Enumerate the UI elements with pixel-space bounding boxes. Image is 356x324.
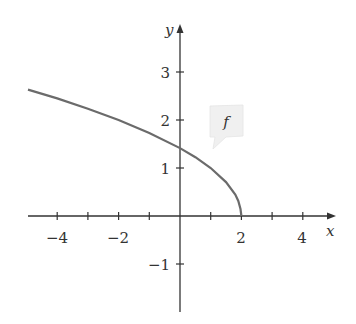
function-graph: −4 −2 2 4 3 2 1 −1 x y f — [0, 0, 356, 324]
curve-label-callout: f — [210, 105, 243, 149]
curve-f — [28, 90, 241, 216]
x-axis-arrow-icon — [327, 213, 336, 220]
x-tick-label: −2 — [107, 229, 129, 247]
x-tick-label: 4 — [297, 229, 307, 247]
x-axis-label: x — [326, 222, 335, 240]
x-tick-label: −4 — [46, 229, 68, 247]
y-tick-label: 3 — [160, 64, 170, 82]
x-tick-label: 2 — [236, 229, 246, 247]
y-tick-label: −1 — [148, 256, 170, 274]
y-tick-label: 2 — [160, 112, 170, 130]
y-axis-label: y — [164, 21, 174, 39]
y-axis-arrow-icon — [177, 24, 184, 33]
y-tick-label: 1 — [160, 160, 170, 178]
